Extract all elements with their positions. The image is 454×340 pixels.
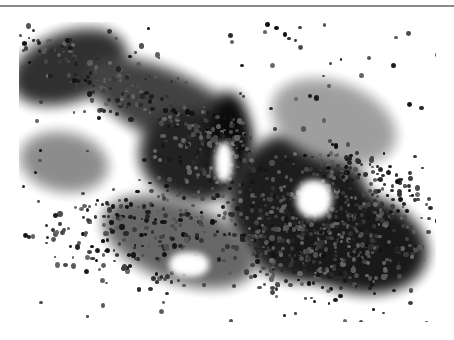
cell-nucleus — [304, 167, 309, 172]
cell-nucleus — [123, 231, 128, 236]
cell-nucleus — [359, 320, 364, 322]
cell-nucleus — [292, 163, 295, 165]
cell-nucleus — [162, 207, 165, 211]
cell-nucleus — [349, 213, 353, 216]
clear-space — [169, 252, 209, 277]
cell-nucleus — [376, 195, 379, 198]
cell-nucleus — [148, 75, 151, 78]
cell-nucleus — [347, 268, 351, 272]
cell-nucleus — [100, 278, 105, 283]
cell-nucleus — [303, 249, 307, 254]
cell-nucleus — [234, 135, 239, 141]
cell-nucleus — [37, 200, 40, 203]
cell-nucleus — [191, 124, 194, 127]
cell-nucleus — [391, 223, 395, 227]
cell-nucleus — [163, 108, 168, 113]
cell-nucleus — [242, 95, 246, 99]
cell-nucleus — [358, 234, 362, 238]
cell-nucleus — [196, 95, 199, 98]
cell-nucleus — [331, 143, 334, 146]
cell-nucleus — [241, 183, 244, 186]
cell-nucleus — [333, 258, 337, 261]
cell-nucleus — [371, 166, 374, 168]
cell-nucleus — [197, 190, 200, 194]
cell-nucleus — [264, 169, 267, 172]
cell-nucleus — [382, 261, 386, 266]
cell-nucleus — [174, 111, 178, 116]
cell-nucleus — [39, 149, 42, 152]
cell-nucleus — [119, 204, 124, 209]
cell-nucleus — [339, 286, 343, 290]
cell-nucleus — [283, 185, 286, 188]
cell-nucleus — [135, 190, 140, 194]
cell-nucleus — [314, 95, 319, 101]
cell-nucleus — [201, 142, 204, 146]
cell-nucleus — [153, 99, 156, 102]
cell-nucleus — [286, 239, 289, 243]
cell-nucleus — [151, 204, 154, 207]
cell-nucleus — [229, 130, 233, 134]
cell-nucleus — [322, 75, 325, 78]
cell-nucleus — [301, 228, 305, 231]
cell-nucleus — [391, 184, 394, 188]
cell-nucleus — [360, 242, 365, 248]
cell-nucleus — [316, 277, 321, 282]
cell-nucleus — [230, 121, 233, 124]
cell-nucleus — [288, 254, 291, 257]
cell-nucleus — [372, 308, 375, 311]
cell-nucleus — [238, 198, 243, 203]
cell-nucleus — [360, 213, 363, 217]
cell-nucleus — [89, 221, 92, 225]
cell-nucleus — [380, 202, 384, 207]
cell-nucleus — [326, 289, 331, 294]
cell-nucleus — [109, 110, 112, 113]
cell-nucleus — [58, 41, 61, 44]
cell-nucleus — [263, 30, 268, 34]
cell-nucleus — [362, 202, 366, 206]
cell-nucleus — [101, 303, 105, 308]
cell-nucleus — [284, 204, 287, 207]
cell-nucleus — [68, 38, 72, 42]
cell-nucleus — [435, 53, 436, 57]
cell-nucleus — [269, 160, 275, 166]
cell-nucleus — [265, 273, 269, 277]
cell-nucleus — [250, 204, 255, 208]
cell-nucleus — [201, 224, 205, 227]
cell-nucleus — [160, 111, 163, 115]
cell-nucleus — [218, 135, 223, 141]
cell-nucleus — [343, 319, 347, 323]
cell-nucleus — [87, 91, 92, 97]
cell-nucleus — [374, 276, 378, 280]
cell-nucleus — [341, 191, 345, 195]
cell-nucleus — [373, 246, 376, 249]
cell-cluster — [19, 125, 114, 200]
cell-nucleus — [321, 286, 324, 289]
cell-nucleus — [391, 63, 396, 69]
cell-nucleus — [84, 231, 88, 235]
cell-nucleus — [196, 156, 199, 159]
cell-nucleus — [405, 237, 409, 241]
cell-nucleus — [377, 214, 381, 218]
cell-nucleus — [274, 215, 278, 219]
cell-nucleus — [175, 178, 178, 181]
cell-nucleus — [421, 167, 424, 170]
cell-nucleus — [164, 184, 169, 188]
cell-nucleus — [138, 103, 143, 107]
cell-nucleus — [191, 134, 194, 137]
cell-nucleus — [294, 312, 297, 315]
cell-nucleus — [90, 257, 94, 260]
cell-nucleus — [249, 131, 253, 134]
cell-nucleus — [88, 205, 91, 208]
cell-nucleus — [389, 210, 393, 214]
cell-nucleus — [275, 282, 280, 287]
cell-nucleus — [205, 119, 209, 122]
cell-nucleus — [128, 117, 133, 122]
cell-nucleus — [249, 188, 253, 191]
cell-nucleus — [382, 223, 387, 228]
cell-nucleus — [359, 73, 364, 79]
cell-nucleus — [381, 274, 386, 280]
cell-nucleus — [144, 91, 149, 95]
cell-nucleus — [407, 102, 412, 107]
cell-nucleus — [161, 143, 165, 148]
cell-nucleus — [217, 214, 221, 218]
